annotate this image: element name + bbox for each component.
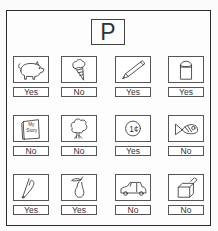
fish-icon (169, 116, 203, 141)
car-icon (116, 175, 150, 200)
picture-car[interactable] (115, 174, 151, 201)
target-letter: P (91, 19, 125, 45)
answer-box[interactable]: No (61, 87, 97, 97)
picture-tree[interactable] (61, 115, 97, 142)
picture-penny[interactable]: 1¢ (115, 115, 151, 142)
picture-safety-pin[interactable] (13, 174, 49, 201)
answer-box[interactable]: Yes (115, 87, 151, 97)
pencil-icon (116, 57, 150, 82)
penny-icon: 1¢ (116, 116, 150, 141)
book-icon: My Story (14, 116, 48, 141)
answer-box[interactable]: Yes (61, 205, 97, 215)
picture-pencil[interactable] (115, 56, 151, 83)
pig-icon (14, 57, 48, 82)
pear-icon (62, 175, 96, 200)
answer-box[interactable]: No (168, 205, 204, 215)
picture-ice-cream-cone[interactable] (61, 56, 97, 83)
answer-box[interactable]: Yes (115, 146, 151, 156)
answer-box[interactable]: Yes (168, 87, 204, 97)
picture-fish[interactable] (168, 115, 204, 142)
picture-paint-can[interactable] (168, 56, 204, 83)
picture-pear[interactable] (61, 174, 97, 201)
coin-text: 1¢ (129, 124, 139, 134)
book-text-line2: Story (26, 128, 37, 133)
book-text-line1: My (28, 122, 35, 127)
tree-icon (62, 116, 96, 141)
box-icon (169, 175, 203, 200)
answer-box[interactable]: No (115, 205, 151, 215)
safety-pin-icon (14, 175, 48, 200)
answer-box[interactable]: No (61, 146, 97, 156)
answer-box[interactable]: Yes (13, 87, 49, 97)
ice-cream-cone-icon (62, 57, 96, 82)
picture-box[interactable] (168, 174, 204, 201)
answer-box[interactable]: No (168, 146, 204, 156)
paint-can-icon (169, 57, 203, 82)
picture-book[interactable]: My Story (13, 115, 49, 142)
answer-box[interactable]: Yes (13, 205, 49, 215)
picture-pig[interactable] (13, 56, 49, 83)
answer-box[interactable]: No (13, 146, 49, 156)
